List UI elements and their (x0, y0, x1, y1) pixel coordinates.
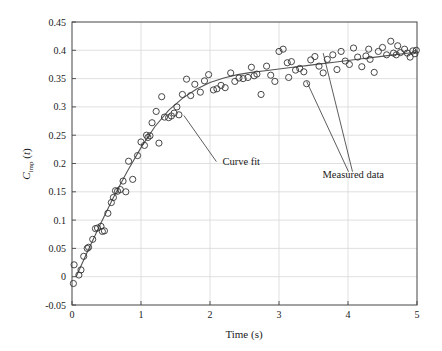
y-tick-label: 0 (61, 271, 66, 282)
y-tick-label: -0.05 (45, 300, 66, 311)
measured-data-label: Measured data (322, 169, 384, 180)
y-tick-label: 0.05 (49, 243, 67, 254)
y-tick-label: 0.25 (49, 130, 67, 141)
x-tick-label: 5 (415, 309, 420, 320)
x-tick-label: 2 (208, 309, 213, 320)
scatter-plot-svg: -0.0500.050.10.150.20.250.30.350.40.45 0… (0, 0, 442, 351)
curve-fit-label: Curve fit (222, 156, 260, 167)
y-tick-label: 0.45 (49, 17, 67, 28)
x-tick-label: 4 (346, 309, 351, 320)
x-tick-label: 1 (139, 309, 144, 320)
y-axis-title-subscript: imp (27, 161, 35, 172)
y-tick-label: 0.15 (49, 186, 67, 197)
x-tick-label: 3 (277, 309, 282, 320)
y-tick-label: 0.4 (54, 45, 67, 56)
y-tick-label: 0.35 (49, 73, 67, 84)
x-axis-title: Time (s) (225, 328, 263, 341)
y-tick-label: 0.3 (54, 101, 67, 112)
y-tick-label: 0.1 (54, 215, 67, 226)
y-tick-label: 0.2 (54, 158, 67, 169)
y-axis-title-close-paren: ) (20, 148, 33, 152)
x-tick-label: 0 (70, 309, 75, 320)
chart-figure: -0.0500.050.10.150.20.250.30.350.40.45 0… (0, 0, 442, 351)
